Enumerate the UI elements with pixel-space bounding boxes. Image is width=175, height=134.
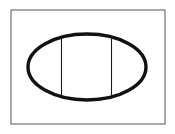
figure-canvas: [0, 0, 175, 134]
figure-background: [0, 0, 175, 134]
figure-drawing: [0, 0, 175, 134]
